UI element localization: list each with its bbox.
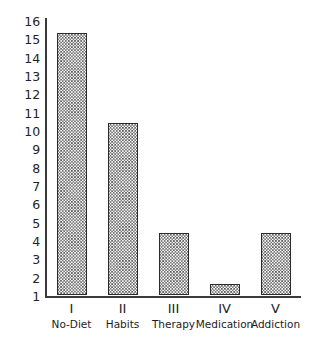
bar-iii (159, 233, 189, 295)
x-tick-medication: IVMedication (196, 300, 253, 332)
y-tick-label: 2 (14, 273, 40, 285)
x-tick-name: Habits (106, 317, 140, 332)
bar-iv (210, 284, 240, 295)
x-axis-tick-labels: INo-DietIIHabitsIIITherapyIVMedicationVA… (0, 300, 324, 348)
x-tick-addiction: VAddiction (251, 300, 300, 332)
y-tick-label: 15 (14, 34, 40, 46)
y-tick-label: 5 (14, 218, 40, 230)
plot-area (46, 18, 301, 297)
x-tick-roman: III (152, 300, 195, 317)
x-tick-roman: I (52, 300, 92, 317)
y-tick-label: 16 (14, 16, 40, 28)
y-tick-label: 7 (14, 181, 40, 193)
y-tick-label: 12 (14, 89, 40, 101)
x-tick-roman: II (106, 300, 140, 317)
y-tick-label: 3 (14, 254, 40, 266)
y-tick-label: 8 (14, 163, 40, 175)
x-tick-roman: V (251, 300, 300, 317)
bar-chart: 16151413121110987654321 INo-DietIIHabits… (0, 0, 324, 348)
y-tick-label: 10 (14, 126, 40, 138)
y-tick-label: 11 (14, 108, 40, 120)
y-tick-label: 13 (14, 71, 40, 83)
x-tick-therapy: IIITherapy (152, 300, 195, 332)
y-tick-label: 6 (14, 199, 40, 211)
x-tick-name: No-Diet (52, 317, 92, 332)
bar-i (57, 33, 87, 295)
y-tick-label: 4 (14, 236, 40, 248)
x-tick-name: Therapy (152, 317, 195, 332)
y-axis-tick-labels: 16151413121110987654321 (6, 0, 40, 348)
bar-v (261, 233, 291, 295)
x-tick-no-diet: INo-Diet (52, 300, 92, 332)
x-tick-habits: IIHabits (106, 300, 140, 332)
y-tick-label: 14 (14, 53, 40, 65)
bar-ii (108, 123, 138, 295)
y-tick-label: 9 (14, 144, 40, 156)
x-tick-roman: IV (196, 300, 253, 317)
x-tick-name: Medication (196, 317, 253, 332)
x-tick-name: Addiction (251, 317, 300, 332)
